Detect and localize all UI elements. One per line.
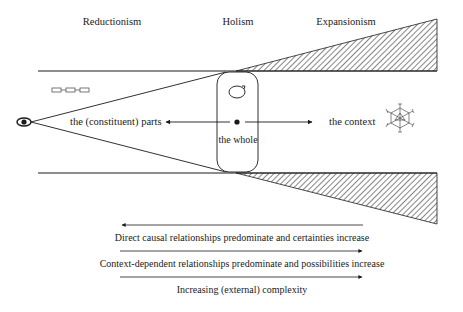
bottom-expansion-wedge — [236, 173, 437, 224]
cone-upper-line — [31, 72, 226, 122]
label-context: the context — [329, 117, 375, 128]
cone-lower-line — [31, 122, 226, 172]
note-certainties: Direct causal relationships predominate … — [115, 233, 369, 243]
label-parts: the (constituent) parts — [70, 117, 162, 128]
whole-center-dot — [234, 119, 239, 124]
linked-boxes-icon — [52, 88, 89, 92]
network-polyhedron-icon — [386, 104, 414, 132]
note-possibilities: Context-dependent relationships predomin… — [100, 259, 385, 269]
header-holism: Holism — [223, 17, 254, 28]
header-expansionism: Expansionism — [316, 17, 376, 28]
header-reductionism: Reductionism — [83, 17, 141, 28]
label-whole: the whole — [218, 135, 257, 145]
note-complexity: Increasing (external) complexity — [177, 285, 308, 295]
eye-icon — [17, 118, 31, 126]
